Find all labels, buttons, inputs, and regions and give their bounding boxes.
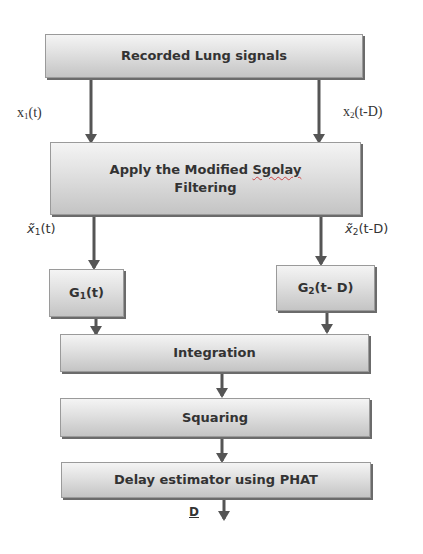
edge-label-x1: x1(t) — [17, 105, 42, 121]
edge-label-x1-tilde: x̃1(t) — [27, 221, 56, 237]
squaring-box: Squaring — [60, 398, 370, 437]
integration-label: Integration — [173, 344, 255, 362]
delay-estimator-box: Delay estimator using PHAT — [61, 462, 371, 498]
g1-box: G1(t) — [49, 269, 124, 317]
recorded-lung-signals-label: Recorded Lung signals — [121, 47, 287, 65]
filter-label-line2: Filtering — [110, 179, 302, 197]
g2-label: G2(t- D) — [298, 279, 354, 297]
output-d-label: D — [189, 505, 199, 519]
filter-label-line1: Apply the Modified Sgolay — [110, 162, 302, 177]
sgolay-filter-box: Apply the Modified Sgolay Filtering — [50, 142, 361, 215]
g2-box: G2(t- D) — [276, 265, 375, 311]
recorded-lung-signals-box: Recorded Lung signals — [45, 34, 363, 78]
delay-estimator-label: Delay estimator using PHAT — [114, 471, 318, 489]
edge-label-x2-tilde: x̃2(t-D) — [345, 221, 388, 237]
integration-box: Integration — [60, 334, 369, 372]
g1-label: G1(t) — [69, 284, 104, 302]
edge-label-x2: x2(t-D) — [343, 104, 383, 120]
squaring-label: Squaring — [182, 409, 248, 427]
